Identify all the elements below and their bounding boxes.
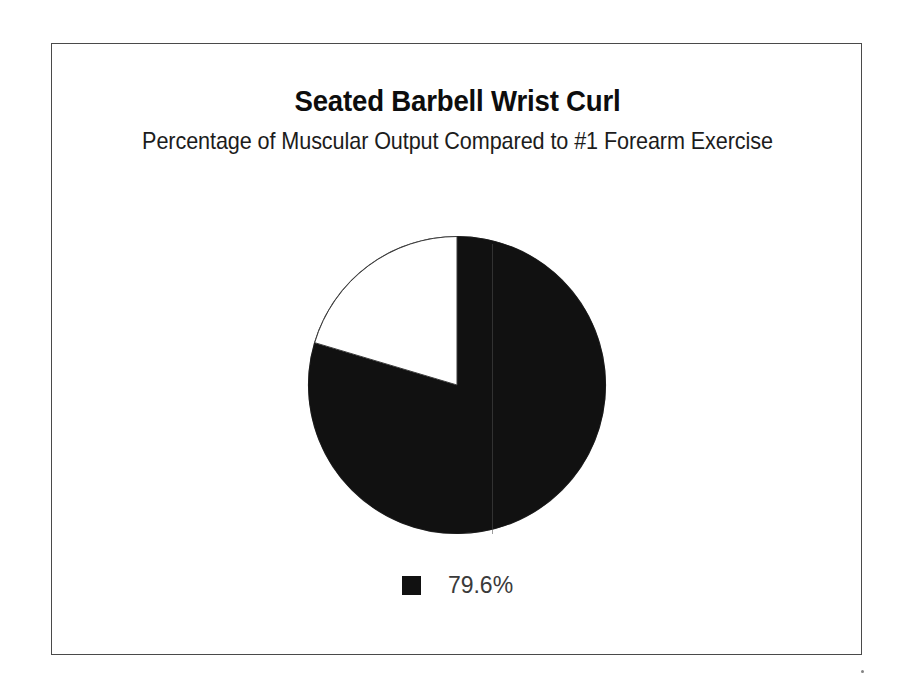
legend-item[interactable]: 79.6% <box>402 573 513 598</box>
legend-label: 79.6% <box>448 573 513 598</box>
chart-legend: 79.6% <box>52 573 863 598</box>
pie-chart <box>307 235 607 535</box>
chart-subtitle: Percentage of Muscular Output Compared t… <box>93 127 823 155</box>
scan-speck-artifact <box>861 670 864 673</box>
pie-chart-svg <box>307 235 607 535</box>
chart-frame: Seated Barbell Wrist Curl Percentage of … <box>51 43 862 655</box>
chart-title: Seated Barbell Wrist Curl <box>84 85 830 117</box>
legend-swatch-icon <box>402 576 421 595</box>
